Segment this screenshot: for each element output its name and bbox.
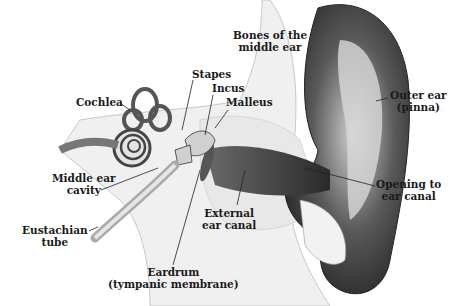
ear-illustration (0, 0, 463, 306)
label-cochlea: Cochlea (76, 96, 123, 108)
label-stapes: Stapes (192, 68, 231, 80)
label-incus: Incus (212, 82, 244, 94)
label-opening-ear-canal: Opening to ear canal (376, 178, 441, 202)
label-middle-ear-cavity: Middle ear cavity (52, 172, 116, 196)
label-malleus: Malleus (226, 96, 273, 108)
cochlea (114, 130, 150, 166)
label-eardrum: Eardrum (tympanic membrane) (108, 266, 239, 290)
label-external-ear-canal: External ear canal (202, 207, 256, 231)
label-outer-ear: Outer ear (pinna) (390, 89, 447, 113)
ear-diagram: Bones of the middle ear Stapes Incus Mal… (0, 0, 463, 306)
label-bones-middle-ear: Bones of the middle ear (233, 29, 307, 53)
label-eustachian-tube: Eustachian tube (22, 224, 88, 248)
